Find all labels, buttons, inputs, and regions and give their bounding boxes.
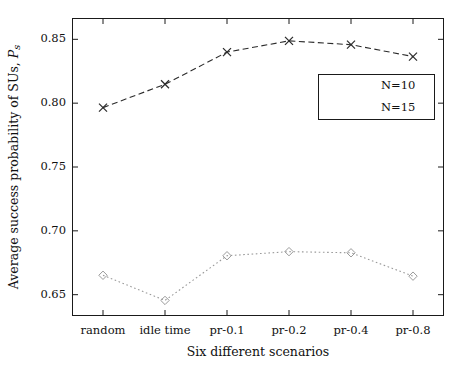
chart-container: 0.650.700.750.800.85 randomidle timepr-0… [0,0,475,373]
y-tick-label: 0.85 [28,31,66,45]
legend-item-1: N=15 [319,97,434,120]
x-tick-label: pr-0.8 [363,323,463,337]
y-tick-label: 0.75 [28,159,66,173]
y-tick-label: 0.65 [28,287,66,301]
legend-label-0: N=10 [381,78,415,92]
y-tick-label: 0.70 [28,223,66,237]
y-tick-label: 0.80 [28,95,66,109]
chart-overlay [0,0,475,373]
legend-label-1: N=15 [381,100,415,114]
axis-ticks [72,18,444,316]
legend: N=10 N=15 [318,74,435,120]
x-axis-label: Six different scenarios [72,344,444,359]
y-axis-label: Average success probability of SUs, Ps [6,18,26,316]
legend-item-0: N=10 [319,75,434,98]
